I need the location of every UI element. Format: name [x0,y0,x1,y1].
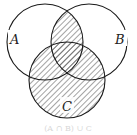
caption: (A ∩ B) ∪ C [44,124,92,133]
label-c: C [62,99,72,114]
label-a: A [9,32,19,47]
label-b: B [114,32,125,47]
venn-diagram: A B C (A ∩ B) ∪ C [0,0,137,135]
